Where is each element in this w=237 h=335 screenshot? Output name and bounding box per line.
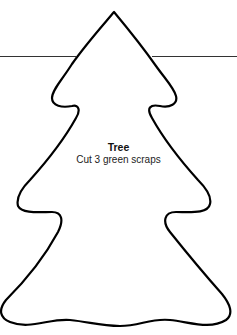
template-instruction: Cut 3 green scraps	[0, 154, 237, 165]
tree-outline	[0, 0, 237, 335]
template-title: Tree	[0, 141, 237, 153]
